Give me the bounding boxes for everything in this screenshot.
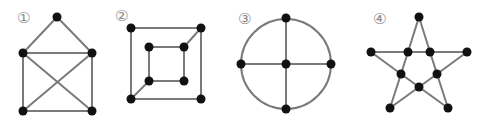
graph-vertex (282, 105, 291, 114)
figure-number-label: ② (115, 7, 128, 25)
figure-4: ④ (367, 10, 472, 113)
graph-vertex (415, 13, 424, 22)
graph-vertex (426, 48, 435, 57)
graph-edge (419, 17, 430, 52)
graph-vertex (88, 49, 97, 58)
graph-vertex (197, 24, 206, 33)
figure-3: ③ (237, 10, 336, 114)
graph-vertex (444, 104, 453, 113)
graph-vertex (145, 77, 154, 86)
graph-edge (371, 52, 401, 74)
graph-edge (57, 17, 92, 53)
graph-vertex (19, 49, 28, 58)
graph-vertex (180, 43, 189, 52)
graph-vertex (415, 83, 424, 92)
graph-figures-panel: ①②③④ (0, 0, 484, 129)
graph-edge (408, 17, 419, 52)
figure-number-label: ① (17, 9, 30, 27)
graph-vertex (327, 60, 336, 69)
figure-number-label: ④ (373, 10, 386, 28)
graph-diagram-canvas: ①②③④ (0, 0, 484, 129)
graph-vertex (367, 48, 376, 57)
graph-vertex (397, 70, 406, 79)
graph-vertex (145, 43, 154, 52)
graph-vertex (180, 77, 189, 86)
figure-2: ② (115, 7, 206, 104)
graph-vertex (127, 95, 136, 104)
graph-vertex (404, 48, 413, 57)
figure-number-label: ③ (238, 10, 251, 28)
graph-edge (437, 52, 467, 74)
graph-vertex (433, 70, 442, 79)
graph-vertex (282, 60, 291, 69)
graph-vertex (88, 107, 97, 116)
figure-1: ① (17, 9, 97, 116)
graph-vertex (386, 104, 395, 113)
graph-vertex (463, 48, 472, 57)
graph-vertex (197, 95, 206, 104)
graph-vertex (53, 13, 62, 22)
graph-vertex (19, 107, 28, 116)
graph-vertex (282, 14, 291, 23)
graph-vertex (237, 60, 246, 69)
